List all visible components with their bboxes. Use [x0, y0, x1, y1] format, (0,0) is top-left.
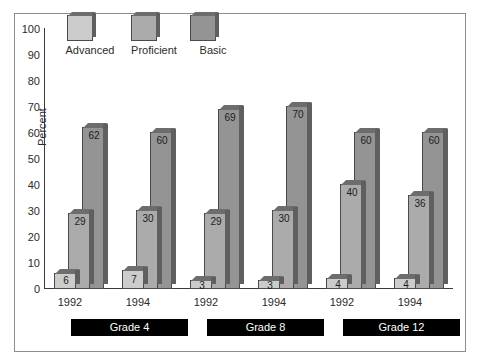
bar-shadow-icon [375, 129, 380, 284]
x-label-grade4-1994: 1994 [111, 296, 165, 308]
bar-advanced-g8-1994: 3 [258, 280, 280, 289]
bar-value-basic: 60 [355, 135, 377, 146]
y-tick-80: 80 [10, 76, 40, 87]
x-label-grade8-1994: 1994 [247, 296, 301, 308]
chart-figure: Advanced Proficient Basic Percent 100 90… [0, 0, 479, 363]
bar-advanced-g12-1992: 4 [326, 278, 348, 289]
bar-value-proficient: 30 [137, 213, 159, 224]
bar-shadow-icon [443, 129, 448, 284]
bar-value-advanced: 7 [123, 274, 145, 285]
y-tick-70: 70 [10, 102, 40, 113]
x-label-grade4-1992: 1992 [43, 296, 97, 308]
bar-value-advanced: 4 [395, 279, 417, 290]
grade-banner-grade8: Grade 8 [207, 319, 324, 336]
y-tick-100: 100 [10, 24, 40, 35]
x-axis-line [44, 288, 453, 289]
bar-value-advanced: 6 [55, 275, 77, 286]
y-tick-0: 0 [10, 284, 40, 295]
bar-value-advanced: 4 [327, 279, 349, 290]
bar-advanced-g4-1992: 6 [54, 273, 76, 289]
x-label-grade12-1994: 1994 [383, 296, 437, 308]
bar-value-basic: 69 [219, 112, 241, 123]
plot-area: Percent 100 90 80 70 60 50 40 30 20 10 0… [44, 28, 454, 290]
y-axis-line [44, 28, 45, 289]
x-label-grade8-1992: 1992 [179, 296, 233, 308]
x-label-grade12-1992: 1992 [315, 296, 369, 308]
y-tick-90: 90 [10, 50, 40, 61]
bar-value-basic: 60 [151, 135, 173, 146]
grade-banner-grade12: Grade 12 [343, 319, 460, 336]
bar-value-proficient: 29 [205, 216, 227, 227]
grade-banner-grade4: Grade 4 [71, 319, 188, 336]
y-tick-60: 60 [10, 128, 40, 139]
y-tick-20: 20 [10, 232, 40, 243]
y-tick-10: 10 [10, 258, 40, 269]
bar-value-proficient: 30 [273, 213, 295, 224]
bar-shadow-icon [239, 106, 244, 284]
bar-value-proficient: 40 [341, 187, 363, 198]
y-axis-ticks: 100 90 80 70 60 50 40 30 20 10 0 [8, 28, 40, 289]
bar-advanced-g12-1994: 4 [394, 278, 416, 289]
bar-value-proficient: 29 [69, 216, 91, 227]
bar-shadow-icon [307, 103, 312, 284]
y-tick-40: 40 [10, 180, 40, 191]
bar-advanced-g4-1994: 7 [122, 270, 144, 289]
y-tick-30: 30 [10, 206, 40, 217]
bar-value-proficient: 36 [409, 198, 431, 209]
bar-value-basic: 70 [287, 109, 309, 120]
bar-value-basic: 62 [83, 130, 105, 141]
y-tick-50: 50 [10, 154, 40, 165]
bar-advanced-g8-1992: 3 [190, 280, 212, 289]
bar-value-advanced: 3 [191, 280, 213, 291]
bar-shadow-icon [103, 124, 108, 284]
bar-value-advanced: 3 [259, 280, 281, 291]
bar-shadow-icon [171, 129, 176, 284]
bar-value-basic: 60 [423, 135, 445, 146]
